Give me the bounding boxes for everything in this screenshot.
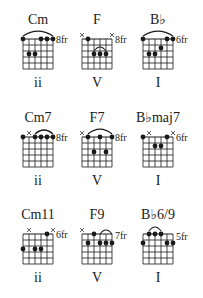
fretboard-grid: 8fr xyxy=(7,124,69,172)
finger-dot xyxy=(86,135,91,140)
roman-numeral: ii xyxy=(7,270,69,286)
finger-dot xyxy=(39,247,44,252)
barre-arc xyxy=(149,227,161,231)
fret-position-label: 8fr xyxy=(115,34,127,45)
finger-dot xyxy=(92,232,97,237)
barre-arc xyxy=(100,230,112,234)
muted-string-icon xyxy=(110,33,114,37)
chord-diagram: F8frV xyxy=(66,12,128,102)
finger-dot xyxy=(39,135,44,140)
finger-dot xyxy=(165,241,170,246)
finger-dot xyxy=(104,150,109,155)
roman-numeral: ii xyxy=(7,173,69,189)
muted-string-icon xyxy=(80,228,84,232)
muted-string-icon xyxy=(51,228,55,232)
roman-numeral: V xyxy=(66,173,128,189)
fret-position-label: 5fr xyxy=(176,231,188,242)
fret-position-label: 7fr xyxy=(115,230,127,241)
fretboard-grid: 8fr xyxy=(66,124,128,172)
finger-dot xyxy=(51,135,56,140)
finger-dot xyxy=(39,37,44,42)
chord-diagram: F97frV xyxy=(66,207,128,297)
finger-dot xyxy=(92,52,97,57)
chord-diagram: Cm8frii xyxy=(7,12,69,102)
finger-dot xyxy=(153,232,158,237)
fretboard-grid: 8fr xyxy=(66,26,128,74)
finger-dot xyxy=(110,135,115,140)
roman-numeral: I xyxy=(127,173,189,189)
finger-dot xyxy=(33,135,38,140)
fretboard-grid: 8fr xyxy=(7,26,69,74)
fretboard-grid: 5fr xyxy=(127,221,189,269)
roman-numeral: V xyxy=(66,270,128,286)
fretboard-grid: 6fr xyxy=(127,26,189,74)
finger-dot xyxy=(98,241,103,246)
muted-string-icon xyxy=(80,131,84,135)
chord-diagram: Cm116frii xyxy=(7,207,69,297)
finger-dot xyxy=(86,241,91,246)
barre-arc xyxy=(88,129,112,134)
finger-dot xyxy=(159,144,164,149)
finger-dot xyxy=(86,37,91,42)
chord-diagram: B♭maj76frI xyxy=(127,110,189,200)
finger-dot xyxy=(147,52,152,57)
fretboard-grid: 6fr xyxy=(127,124,189,172)
finger-dot xyxy=(33,52,38,57)
finger-dot xyxy=(92,150,97,155)
fretboard-grid: 7fr xyxy=(66,221,128,269)
finger-dot xyxy=(21,247,26,252)
finger-dot xyxy=(21,37,26,42)
finger-dot xyxy=(27,52,32,57)
chord-diagram: B♭6/95frI xyxy=(127,207,189,297)
finger-dot xyxy=(98,135,103,140)
roman-numeral: I xyxy=(127,75,189,91)
finger-dot xyxy=(165,37,170,42)
muted-string-icon xyxy=(147,131,151,135)
fretboard-grid: 6fr xyxy=(7,221,69,269)
muted-string-icon xyxy=(27,228,31,232)
finger-dot xyxy=(141,241,146,246)
finger-dot xyxy=(171,241,176,246)
finger-dot xyxy=(104,52,109,57)
barre-arc xyxy=(143,31,173,36)
muted-string-icon xyxy=(171,131,175,135)
finger-dot xyxy=(45,37,50,42)
finger-dot xyxy=(45,232,50,237)
finger-dot xyxy=(165,135,170,140)
finger-dot xyxy=(159,46,164,51)
finger-dot xyxy=(153,144,158,149)
chord-diagram: Cm78frii xyxy=(7,110,69,200)
finger-dot xyxy=(141,37,146,42)
finger-dot xyxy=(110,241,115,246)
barre-arc xyxy=(23,31,53,36)
roman-numeral: V xyxy=(66,75,128,91)
barre-arc xyxy=(35,130,53,134)
finger-dot xyxy=(51,37,56,42)
muted-string-icon xyxy=(27,131,31,135)
roman-numeral: I xyxy=(127,270,189,286)
finger-dot xyxy=(98,52,103,57)
chord-diagram: B♭6frI xyxy=(127,12,189,102)
finger-dot xyxy=(141,135,146,140)
finger-dot xyxy=(147,232,152,237)
finger-dot xyxy=(33,247,38,252)
chord-diagram: F78frV xyxy=(66,110,128,200)
muted-string-icon xyxy=(80,33,84,37)
finger-dot xyxy=(153,52,158,57)
finger-dot xyxy=(159,232,164,237)
finger-dot xyxy=(171,37,176,42)
finger-dot xyxy=(104,241,109,246)
fret-position-label: 6fr xyxy=(176,34,188,45)
finger-dot xyxy=(45,135,50,140)
roman-numeral: ii xyxy=(7,75,69,91)
fret-position-label: 6fr xyxy=(176,132,188,143)
finger-dot xyxy=(21,135,26,140)
fret-position-label: 8fr xyxy=(115,132,127,143)
